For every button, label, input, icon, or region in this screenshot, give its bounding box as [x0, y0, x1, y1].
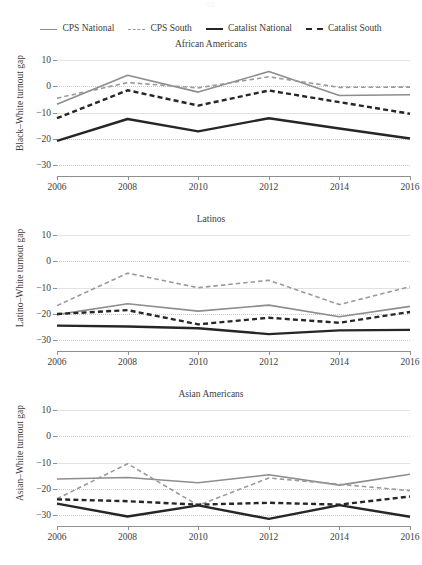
y-tick-label: 10	[11, 405, 51, 415]
y-tick-label: −20	[11, 484, 51, 494]
series-lines	[57, 52, 410, 176]
x-tick-mark	[410, 176, 411, 180]
x-axis-line	[57, 526, 410, 527]
x-tick-label: 2012	[247, 358, 291, 368]
y-tick-label: −10	[11, 458, 51, 468]
y-tick-label: −20	[11, 309, 51, 319]
y-tick-label: −10	[11, 283, 51, 293]
series-line	[57, 326, 410, 334]
x-tick-mark	[410, 526, 411, 530]
legend-label: Catalist South	[328, 24, 382, 34]
series-line	[57, 496, 410, 504]
x-axis-line	[57, 176, 410, 177]
legend-swatch-solid-gray-icon	[40, 29, 57, 30]
x-tick-label: 2008	[106, 358, 150, 368]
x-axis-line	[57, 351, 410, 352]
panel-title: Asian Americans	[0, 388, 422, 400]
y-tick-label: −30	[11, 335, 51, 345]
x-tick-label: 2010	[176, 533, 220, 543]
legend-label: CPS National	[62, 24, 114, 34]
panel-latinos: Latinos Latino–White turnout gap 100−10−…	[0, 213, 422, 381]
plot-area: 100−10−20−30200620082010201220142016	[57, 402, 410, 526]
panel-asian-americans: Asian Americans Asian–White turnout gap …	[0, 388, 422, 556]
y-tick-label: 0	[11, 256, 51, 266]
series-lines	[57, 402, 410, 526]
series-line	[57, 90, 410, 118]
plot-area: 100−10−20−30200620082010201220142016	[57, 227, 410, 351]
panel-title: African Americans	[0, 38, 422, 50]
legend-swatch-dashed-black-icon	[306, 28, 323, 30]
plot-area: 100−10−20−30200620082010201220142016	[57, 52, 410, 176]
y-tick-label: −20	[11, 134, 51, 144]
x-tick-label: 2012	[247, 533, 291, 543]
y-tick-label: 0	[11, 431, 51, 441]
legend-swatch-dashed-gray-icon	[128, 29, 145, 30]
y-tick-label: −10	[11, 108, 51, 118]
top-edge-artifact	[206, 2, 215, 7]
x-tick-label: 2008	[106, 183, 150, 193]
legend-item-cps-national: CPS National	[40, 24, 114, 34]
legend-item-catalist-south: Catalist South	[306, 24, 382, 34]
x-tick-label: 2008	[106, 533, 150, 543]
x-tick-label: 2014	[317, 183, 361, 193]
panel-title: Latinos	[0, 213, 422, 225]
series-line	[57, 118, 410, 141]
figure-turnout-gap-panels: CPS National CPS South Catalist National…	[0, 0, 422, 565]
x-tick-label: 2010	[176, 183, 220, 193]
chart-legend: CPS National CPS South Catalist National…	[0, 20, 422, 38]
y-tick-label: −30	[11, 160, 51, 170]
y-tick-label: −30	[11, 510, 51, 520]
x-tick-label: 2010	[176, 358, 220, 368]
series-line	[57, 474, 410, 485]
legend-swatch-solid-black-icon	[206, 28, 223, 30]
series-line	[57, 464, 410, 506]
series-line	[57, 504, 410, 519]
x-tick-label: 2016	[388, 358, 422, 368]
y-tick-label: 0	[11, 81, 51, 91]
x-tick-label: 2014	[317, 533, 361, 543]
x-tick-mark	[410, 351, 411, 355]
x-tick-label: 2014	[317, 358, 361, 368]
series-lines	[57, 227, 410, 351]
y-tick-label: 10	[11, 55, 51, 65]
x-tick-label: 2006	[35, 183, 79, 193]
y-tick-label: 10	[11, 230, 51, 240]
legend-item-catalist-national: Catalist National	[206, 24, 292, 34]
series-line	[57, 273, 410, 305]
legend-label: CPS South	[150, 24, 191, 34]
x-tick-label: 2006	[35, 533, 79, 543]
legend-label: Catalist National	[228, 24, 292, 34]
x-tick-label: 2006	[35, 358, 79, 368]
x-tick-label: 2012	[247, 183, 291, 193]
panel-african-americans: African Americans Black–White turnout ga…	[0, 38, 422, 206]
x-tick-label: 2016	[388, 533, 422, 543]
x-tick-label: 2016	[388, 183, 422, 193]
legend-item-cps-south: CPS South	[128, 24, 191, 34]
series-line	[57, 310, 410, 324]
